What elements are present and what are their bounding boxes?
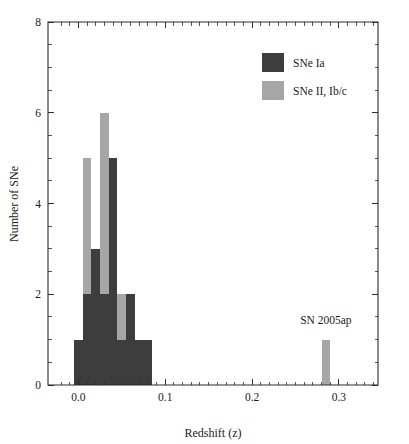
histogram-bar [100,294,109,385]
x-tick-label: 0.3 [332,391,347,403]
x-tick-label: 0.2 [245,391,260,403]
chart-background [0,0,409,444]
y-tick-label: 2 [35,288,41,300]
figure-container: 0.00.10.20.302468 SN 2005ap SNe IaSNe II… [0,0,409,444]
y-tick-label: 0 [35,379,41,391]
histogram-bar [135,340,144,385]
histogram-bar [74,340,83,385]
legend-label: SNe Ia [293,57,325,69]
y-axis-title: Number of SNe [7,166,21,242]
histogram-bar [126,294,135,385]
y-tick-label: 4 [35,198,41,210]
legend-label: SNe II, Ib/c [293,85,347,98]
annotations-group: SN 2005ap [300,314,352,327]
histogram-bar [322,340,331,385]
x-tick-label: 0.0 [71,391,86,403]
y-tick-label: 8 [35,16,41,28]
y-tick-label: 6 [35,107,41,119]
chart-annotation-sn-2005ap: SN 2005ap [300,314,352,327]
histogram-bar [117,340,126,385]
histogram-bar [109,158,118,385]
histogram-bar [83,294,92,385]
histogram-bar [144,340,153,385]
x-axis-title: Redshift (z) [185,426,242,440]
legend-swatch [262,81,284,100]
x-tick-label: 0.1 [158,391,173,403]
histogram-bar [91,249,100,385]
histogram-chart: 0.00.10.20.302468 SN 2005ap SNe IaSNe II… [0,0,409,444]
legend-swatch [262,53,284,72]
